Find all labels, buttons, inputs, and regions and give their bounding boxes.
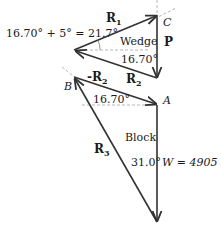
angle-arc-wedge: [98, 40, 100, 50]
label-block-angle-top: 16.70°: [93, 93, 130, 106]
label-point-a: A: [162, 94, 171, 107]
label-wedge: Wedge: [120, 35, 158, 48]
label-block: Block: [125, 131, 156, 144]
force-polygon-diagram: R1 16.70° + 5° = 21.7° C Wedge P 16.70° …: [0, 0, 221, 229]
label-weight: W = 4905 N: [162, 156, 221, 169]
label-point-b: B: [63, 80, 72, 93]
label-r1: R1: [106, 11, 122, 27]
label-point-c: C: [163, 16, 172, 29]
label-p: P: [164, 35, 173, 49]
label-wedge-angle-top: 16.70° + 5° = 21.7°: [6, 27, 118, 40]
label-wedge-angle-bottom: 16.70°: [121, 53, 158, 66]
label-block-angle-bottom: 31.0°: [131, 156, 161, 169]
label-r3: R3: [94, 142, 110, 158]
label-neg-r2: -R2: [87, 70, 108, 86]
label-r2: R2: [126, 72, 142, 88]
